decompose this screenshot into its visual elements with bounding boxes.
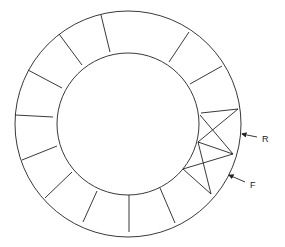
arrow-f-icon [229,175,245,182]
truss-member [183,154,233,169]
segment-divider [15,115,53,117]
segment-divider [83,191,97,222]
label-f: F [250,180,256,190]
truss-member [201,109,238,113]
segment-divider [59,34,82,65]
segment-divider [190,66,222,84]
truss-section [183,109,238,194]
truss-member [183,169,211,194]
segment-divider [160,188,175,223]
ring-diagram: RF [0,0,285,247]
label-r: R [262,134,269,144]
segment-divider [28,70,62,88]
segment-divider [45,172,72,198]
annotation-labels: RF [229,134,269,190]
truss-member [198,109,238,142]
ring-segments [15,15,222,232]
arrow-r-icon [242,134,257,137]
segment-divider [169,32,189,62]
truss-member [198,142,211,194]
segment-divider [22,146,57,160]
inner-ring [57,53,199,195]
segment-divider [101,15,110,52]
